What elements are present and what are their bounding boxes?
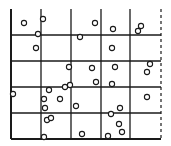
sample-point bbox=[21, 20, 26, 25]
sample-point bbox=[40, 16, 45, 21]
sample-point bbox=[35, 31, 40, 36]
sample-point bbox=[48, 115, 53, 120]
sample-point bbox=[62, 84, 67, 89]
sample-point bbox=[144, 94, 149, 99]
sample-point bbox=[33, 45, 38, 50]
sample-point bbox=[67, 82, 72, 87]
sample-point bbox=[89, 65, 94, 70]
sample-point bbox=[77, 34, 82, 39]
sample-point bbox=[92, 20, 97, 25]
sample-point bbox=[138, 23, 143, 28]
sample-point bbox=[42, 105, 47, 110]
sample-point bbox=[105, 133, 110, 138]
sample-point bbox=[135, 28, 140, 33]
sample-point bbox=[147, 61, 152, 66]
sample-point bbox=[73, 103, 78, 108]
quadrat-grid-diagram bbox=[0, 0, 171, 146]
sample-point bbox=[117, 105, 122, 110]
sample-point bbox=[119, 129, 124, 134]
sample-point bbox=[109, 45, 114, 50]
sample-point bbox=[46, 87, 51, 92]
sample-point bbox=[144, 69, 149, 74]
sample-point bbox=[110, 26, 115, 31]
sample-point bbox=[116, 121, 121, 126]
sample-point bbox=[10, 91, 15, 96]
sample-point bbox=[93, 79, 98, 84]
sample-point bbox=[108, 111, 113, 116]
sample-point bbox=[57, 96, 62, 101]
sample-point bbox=[66, 64, 71, 69]
sample-point bbox=[41, 134, 46, 139]
sample-point bbox=[112, 64, 117, 69]
sample-point bbox=[41, 96, 46, 101]
sample-point bbox=[109, 81, 114, 86]
sample-point bbox=[79, 131, 84, 136]
